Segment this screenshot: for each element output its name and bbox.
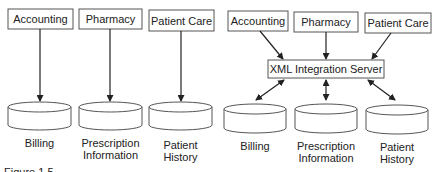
database-prescription-information: Prescription Information xyxy=(79,102,142,161)
svg-text:Pharmacy: Pharmacy xyxy=(301,16,351,28)
svg-text:Prescription: Prescription xyxy=(81,137,139,149)
app-box-accounting: Accounting xyxy=(228,11,288,31)
database-patient-history: Patient History xyxy=(366,105,428,165)
svg-text:Prescription: Prescription xyxy=(297,140,355,152)
svg-text:Patient Care: Patient Care xyxy=(367,17,428,29)
database-prescription-information: Prescription Information xyxy=(295,104,357,164)
svg-text:Patient: Patient xyxy=(380,141,414,153)
svg-text:Patient: Patient xyxy=(163,139,197,151)
database-patient-history: Patient History xyxy=(149,102,212,163)
right-diagram: Accounting Pharmacy Patient Care XML Int… xyxy=(224,11,431,165)
integration-diagram: Accounting Pharmacy Patient Care Billing… xyxy=(0,0,438,172)
svg-text:History: History xyxy=(380,153,415,165)
svg-text:XML Integration Server: XML Integration Server xyxy=(270,63,383,75)
svg-text:Information: Information xyxy=(83,149,138,161)
xml-integration-server: XML Integration Server xyxy=(268,60,384,78)
figure-caption-fragment: Figure 1.5 xyxy=(4,166,54,172)
svg-text:Pharmacy: Pharmacy xyxy=(86,13,136,25)
database-billing: Billing xyxy=(224,104,286,152)
app-box-pharmacy: Pharmacy xyxy=(294,12,358,32)
app-box-patient-care: Patient Care xyxy=(149,10,214,31)
app-box-accounting: Accounting xyxy=(8,9,73,29)
svg-text:Billing: Billing xyxy=(25,137,54,149)
arrow-server-billing xyxy=(256,80,284,100)
left-diagram: Accounting Pharmacy Patient Care Billing… xyxy=(8,9,214,163)
svg-text:Information: Information xyxy=(298,152,353,164)
database-billing: Billing xyxy=(8,102,71,149)
app-box-pharmacy: Pharmacy xyxy=(79,9,142,29)
app-box-patient-care: Patient Care xyxy=(365,13,431,33)
arrow-server-history xyxy=(368,80,395,100)
svg-text:Patient Care: Patient Care xyxy=(151,15,212,27)
arrow-patientcare-server xyxy=(372,33,391,59)
arrow-accounting-server xyxy=(260,31,283,59)
svg-text:History: History xyxy=(163,151,198,163)
svg-text:Accounting: Accounting xyxy=(231,15,285,27)
svg-text:Billing: Billing xyxy=(240,140,269,152)
svg-text:Accounting: Accounting xyxy=(13,13,67,25)
